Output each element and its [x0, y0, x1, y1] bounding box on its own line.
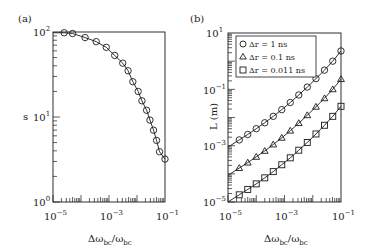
panel-a-label: (a) [18, 13, 32, 24]
legend-item-1: Δr = 1 ns [249, 40, 287, 49]
svg-text:101: 101 [33, 110, 50, 123]
panel-a-xlabel: Δωbc/ωbc [88, 233, 132, 247]
panel-b-ylabel: L (m) [208, 103, 219, 130]
panel-a: (a) 102 101 100 10−5 10−3 10−1 s Δωbc/ωb… [18, 13, 179, 247]
legend-item-3: Δr = 0.011 ns [249, 66, 305, 75]
svg-text:10−1: 10−1 [203, 83, 226, 96]
svg-text:10−3: 10−3 [100, 209, 123, 222]
svg-text:102: 102 [33, 25, 50, 38]
panel-a-y-ticklabels: 102 101 100 [33, 25, 50, 208]
svg-text:10−1: 10−1 [156, 209, 179, 222]
panel-a-x-ticklabels: 10−5 10−3 10−1 [44, 209, 179, 222]
panel-a-ylabel: s [23, 111, 28, 122]
panel-b-legend: Δr = 1 ns Δr = 0.1 ns Δr = 0.011 ns [236, 36, 316, 77]
svg-text:10−1: 10−1 [332, 209, 355, 222]
svg-text:10−5: 10−5 [219, 209, 242, 222]
legend-item-2: Δr = 0.1 ns [249, 53, 295, 62]
panel-b: (b) Δr = 1 ns Δr = 0.1 ns Δr = 0.011 ns … [190, 13, 355, 247]
svg-text:101: 101 [206, 26, 223, 39]
figure: (a) 102 101 100 10−5 10−3 10−1 s Δωbc/ωb… [0, 0, 369, 250]
svg-text:10−3: 10−3 [203, 139, 226, 152]
panel-b-label: (b) [190, 13, 204, 24]
panel-a-data [53, 30, 168, 163]
svg-text:10−3: 10−3 [275, 209, 298, 222]
svg-text:100: 100 [33, 195, 50, 208]
svg-text:10−5: 10−5 [203, 195, 226, 208]
svg-text:10−5: 10−5 [44, 209, 67, 222]
panel-b-x-ticklabels: 10−5 10−3 10−1 [219, 209, 355, 222]
panel-b-xlabel: Δωbc/ωbc [264, 233, 308, 247]
